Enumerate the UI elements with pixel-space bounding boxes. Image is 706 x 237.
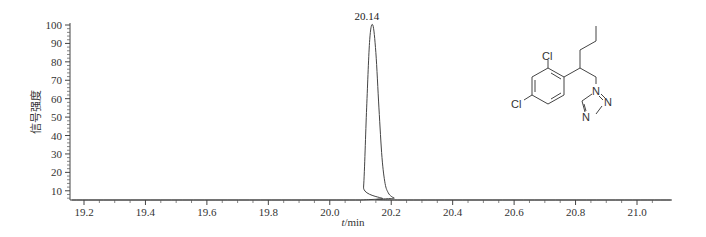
- y-axis: 102030405060708090100: [46, 19, 71, 200]
- x-tick-label: 19.2: [74, 206, 93, 218]
- y-tick-label: 90: [51, 37, 63, 49]
- x-tick-label: 19.4: [136, 206, 156, 218]
- atom-cl-left: Cl: [511, 98, 521, 110]
- atom-cl-top: Cl: [542, 50, 552, 62]
- x-tick-label: 20.2: [382, 206, 401, 218]
- x-tick-label: 19.8: [259, 206, 279, 218]
- x-tick-label: 19.6: [197, 206, 217, 218]
- y-tick-label: 40: [51, 130, 63, 142]
- x-axis-title: t/min: [341, 216, 365, 228]
- x-tick-label: 20.0: [320, 206, 340, 218]
- y-tick-label: 20: [51, 166, 63, 178]
- chromatogram-chart: 102030405060708090100 19.219.419.619.820…: [0, 0, 706, 237]
- y-tick-label: 70: [51, 74, 63, 86]
- y-tick-label: 60: [51, 93, 63, 105]
- y-axis-title: 信号强度: [29, 90, 42, 134]
- peak-label: 20.14: [354, 10, 379, 22]
- y-tick-label: 100: [46, 19, 63, 31]
- y-tick-label: 80: [51, 56, 63, 68]
- chromatogram-trace: [72, 24, 671, 200]
- y-tick-label: 50: [51, 111, 63, 123]
- x-tick-label: 20.4: [443, 206, 463, 218]
- atom-n1: N: [592, 85, 600, 97]
- y-tick-label: 10: [51, 185, 63, 197]
- x-tick-label: 21.0: [627, 206, 647, 218]
- molecule-structure: [524, 26, 605, 114]
- atom-n2: N: [604, 96, 612, 108]
- atom-n3: N: [582, 111, 590, 123]
- y-tick-label: 30: [51, 148, 63, 160]
- x-tick-label: 20.8: [566, 206, 586, 218]
- x-axis: 19.219.419.619.820.020.220.420.620.821.0: [70, 200, 672, 218]
- x-tick-label: 20.6: [504, 206, 524, 218]
